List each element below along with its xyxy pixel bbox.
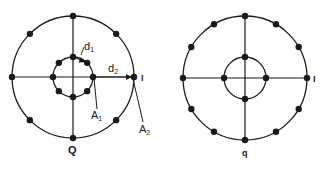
outer-symbol-point	[295, 106, 301, 112]
right-constellation	[180, 13, 310, 143]
a2-label: A2	[139, 123, 150, 136]
outer-symbol-point	[180, 75, 186, 81]
inner-symbol-point	[70, 54, 76, 60]
left-q-axis-label: Q	[68, 144, 77, 156]
right-i-axis-label: I	[313, 74, 316, 84]
inner-symbol-point	[70, 94, 76, 100]
inner-symbol-point	[56, 88, 62, 94]
outer-symbol-point	[273, 21, 279, 27]
outer-symbol-point	[27, 117, 33, 123]
outer-symbol-point	[188, 106, 194, 112]
outer-symbol-point	[9, 74, 15, 80]
a1-label: A1	[91, 109, 102, 122]
inner-symbol-point	[263, 75, 269, 81]
a2-leader	[133, 79, 143, 122]
inner-symbol-point	[242, 54, 248, 60]
outer-symbol-point	[27, 31, 33, 37]
inner-symbol-point	[90, 74, 96, 80]
d2-label: d2	[108, 62, 118, 75]
outer-symbol-point	[70, 135, 76, 141]
constellation-diagrams: d1 d2 A1 A2 I Q I q	[0, 0, 326, 169]
outer-symbol-point	[211, 128, 217, 134]
outer-symbol-point	[242, 13, 248, 19]
inner-symbol-point	[84, 60, 90, 66]
left-i-axis-label: I	[141, 73, 144, 83]
outer-symbol-point	[242, 137, 248, 143]
outer-symbol-point	[295, 44, 301, 50]
outer-symbol-point	[113, 31, 119, 37]
outer-symbol-point	[70, 13, 76, 19]
inner-symbol-point	[242, 96, 248, 102]
outer-symbol-point	[211, 21, 217, 27]
left-constellation	[9, 13, 143, 141]
outer-symbol-point	[273, 128, 279, 134]
outer-symbol-point	[113, 117, 119, 123]
a1-leader	[94, 78, 97, 109]
inner-symbol-point	[50, 74, 56, 80]
inner-symbol-point	[221, 75, 227, 81]
outer-symbol-point	[304, 75, 310, 81]
inner-symbol-point	[84, 88, 90, 94]
d1-label: d1	[84, 40, 94, 53]
outer-symbol-point	[131, 74, 137, 80]
inner-symbol-point	[56, 60, 62, 66]
right-q-axis-label: q	[242, 148, 248, 158]
outer-symbol-point	[188, 44, 194, 50]
